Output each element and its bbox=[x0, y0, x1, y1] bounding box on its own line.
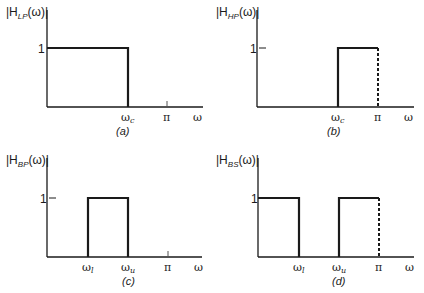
xtick-omega-l: ωl bbox=[82, 261, 94, 275]
ytick-one: 1 bbox=[250, 42, 257, 56]
ylabel-bandstop: |HBS(ω)| bbox=[216, 153, 259, 169]
panel-bandstop: |HBS(ω)| 1 ωl ωu π ω (d) bbox=[216, 153, 414, 287]
highpass-response bbox=[338, 48, 378, 107]
xaxis-label-omega: ω bbox=[193, 111, 202, 124]
xaxis-label-omega: ω bbox=[405, 261, 414, 274]
xaxis-label-omega: ω bbox=[194, 261, 203, 274]
panel-highpass: |HHP(ω)| 1 ωc π ω (b) bbox=[216, 5, 414, 137]
ytick-one: 1 bbox=[38, 42, 45, 56]
panel-lowpass: |HLP(ω)| 1 ωc π ω (a) bbox=[6, 5, 203, 137]
xtick-pi: π bbox=[375, 261, 382, 274]
lowpass-response bbox=[47, 48, 128, 107]
bandstop-upper-passband bbox=[339, 198, 379, 257]
bandstop-lower-passband bbox=[258, 198, 299, 257]
xaxis-label-omega: ω bbox=[404, 111, 413, 124]
ylabel-lowpass: |HLP(ω)| bbox=[6, 5, 48, 21]
xtick-pi: π bbox=[164, 261, 171, 274]
caption-b: (b) bbox=[327, 125, 341, 137]
panel-bandpass: |HBP(ω)| 1 ωl ωu π ω (c) bbox=[6, 153, 203, 287]
xtick-pi: π bbox=[374, 111, 381, 124]
xtick-omega-l: ωl bbox=[293, 261, 305, 275]
caption-d: (d) bbox=[332, 275, 346, 287]
xtick-omega-u: ωu bbox=[121, 261, 135, 275]
ylabel-highpass: |HHP(ω)| bbox=[216, 5, 259, 21]
xtick-omega-c: ωc bbox=[331, 111, 345, 125]
bandpass-response bbox=[88, 198, 128, 257]
xtick-omega-c: ωc bbox=[121, 111, 135, 125]
ytick-one: 1 bbox=[40, 192, 47, 206]
ytick-one: 1 bbox=[251, 192, 258, 206]
filter-response-diagram: |HLP(ω)| 1 ωc π ω (a) |HHP(ω)| 1 ωc π ω … bbox=[0, 0, 424, 293]
caption-c: (c) bbox=[122, 275, 135, 287]
xtick-pi: π bbox=[163, 111, 170, 124]
xtick-omega-u: ωu bbox=[332, 261, 346, 275]
caption-a: (a) bbox=[116, 125, 130, 137]
ylabel-bandpass: |HBP(ω)| bbox=[6, 153, 49, 169]
